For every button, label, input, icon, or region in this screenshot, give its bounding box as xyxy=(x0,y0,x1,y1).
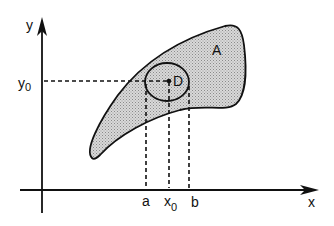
a-label: a xyxy=(142,193,150,209)
region-d-label: D xyxy=(173,73,183,89)
x-axis-label: x xyxy=(308,194,315,210)
x0-label: x0 xyxy=(164,193,177,213)
x0-label-base: x xyxy=(164,193,171,209)
x0-label-sub: 0 xyxy=(171,201,177,213)
point-d xyxy=(167,79,172,84)
b-label: b xyxy=(191,194,199,210)
region-a xyxy=(90,25,246,158)
y-axis-label: y xyxy=(26,17,33,33)
y0-label-sub: 0 xyxy=(25,81,31,93)
y0-label-base: y xyxy=(18,75,25,91)
y0-label: y0 xyxy=(18,75,31,93)
diagram-canvas: y x y0 a x0 b A D xyxy=(0,0,334,226)
region-a-label: A xyxy=(212,42,222,58)
